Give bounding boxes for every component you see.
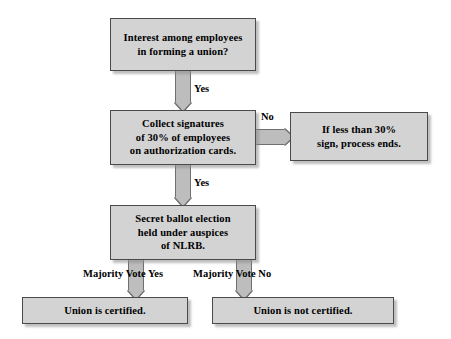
- node-label: Interest among employees in forming a un…: [120, 31, 247, 58]
- arrow-collect-to-less-than-30: [254, 129, 294, 145]
- arrow-collect-to-ballot: [175, 163, 191, 207]
- node-secret-ballot-election: Secret ballot election held under auspic…: [110, 205, 256, 260]
- arrow-shaft: [175, 163, 191, 198]
- node-label: Secret ballot election held under auspic…: [131, 212, 234, 253]
- flowchart-canvas: Interest among employees in forming a un…: [0, 0, 451, 339]
- node-union-is-not-certified: Union is not certified.: [212, 297, 394, 324]
- node-label: Union is not certified.: [249, 304, 356, 318]
- node-union-is-certified: Union is certified.: [22, 297, 188, 324]
- node-label: Collect signatures of 30% of employees o…: [126, 117, 240, 158]
- node-less-than-30-process-ends: If less than 30% sign, process ends.: [290, 112, 428, 161]
- edge-label-no-collect: No: [261, 111, 274, 122]
- arrow-shaft: [254, 129, 285, 145]
- arrow-shaft: [175, 69, 191, 103]
- node-label: Union is certified.: [60, 304, 150, 318]
- edge-label-majority-vote-no: Majority Vote No: [193, 268, 271, 279]
- node-collect-signatures: Collect signatures of 30% of employees o…: [110, 110, 256, 165]
- node-label: If less than 30% sign, process ends.: [313, 123, 405, 150]
- edge-label-majority-vote-yes: Majority Vote Yes: [83, 268, 163, 279]
- arrow-ballot-to-certified: [128, 258, 144, 300]
- arrow-ballot-to-not-certified: [236, 258, 252, 300]
- arrow-interest-to-collect: [175, 69, 191, 112]
- node-interest-among-employees: Interest among employees in forming a un…: [110, 18, 256, 71]
- edge-label-yes-interest: Yes: [194, 83, 209, 94]
- edge-label-yes-collect: Yes: [194, 177, 209, 188]
